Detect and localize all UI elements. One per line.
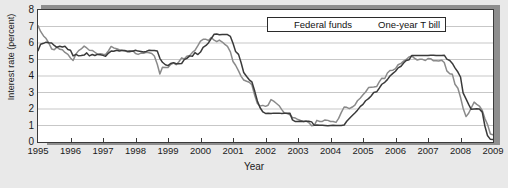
- x-axis-title: Year: [0, 161, 508, 172]
- x-tick-mark: [201, 138, 202, 142]
- y-tick-label: 6: [16, 38, 34, 48]
- x-tick-mark: [461, 138, 462, 142]
- x-tick-mark: [266, 138, 267, 142]
- x-tick-mark: [233, 138, 234, 142]
- x-tick-mark: [331, 138, 332, 142]
- x-tick-mark: [396, 138, 397, 142]
- y-tick-label: 7: [16, 22, 34, 32]
- x-tick-label: 2009: [473, 146, 508, 156]
- legend-item-federal-funds: Federal funds: [273, 20, 352, 30]
- series-line-one-year-t-bill: [38, 26, 493, 135]
- y-tick-label: 4: [16, 71, 34, 81]
- x-tick-mark: [298, 138, 299, 142]
- chart-figure: Interest rate (percent) 012345678 199519…: [0, 0, 508, 188]
- x-axis-ticks: 1995199619971998199920002001200220032004…: [37, 146, 494, 160]
- series-line-federal-funds: [38, 34, 493, 139]
- y-axis-ticks: 012345678: [16, 9, 34, 143]
- x-tick-mark: [428, 138, 429, 142]
- y-tick-label: 3: [16, 88, 34, 98]
- x-tick-mark: [363, 138, 364, 142]
- legend-label-one-year-t-bill: One-year T bill: [378, 20, 440, 30]
- x-tick-mark: [168, 138, 169, 142]
- x-tick-mark: [136, 138, 137, 142]
- frame-shadow-right: [494, 5, 500, 145]
- y-tick-label: 2: [16, 104, 34, 114]
- legend-item-one-year-t-bill: One-year T bill: [357, 20, 440, 30]
- gridlines: [38, 27, 493, 126]
- y-axis-title: Interest rate (percent): [6, 0, 16, 122]
- x-tick-mark: [103, 138, 104, 142]
- legend-label-federal-funds: Federal funds: [294, 20, 352, 30]
- x-tick-mark: [71, 138, 72, 142]
- y-tick-label: 8: [16, 5, 34, 15]
- chart-legend: Federal funds One-year T bill: [267, 17, 446, 32]
- y-tick-label: 5: [16, 55, 34, 65]
- y-tick-label: 1: [16, 121, 34, 131]
